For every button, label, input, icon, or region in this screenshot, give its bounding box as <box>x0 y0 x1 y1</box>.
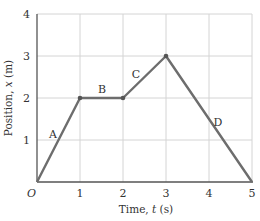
y-axis-label: Position, x (m) <box>2 60 14 136</box>
x-tick-1: 1 <box>77 187 84 200</box>
position-time-chart: 1 2 3 4 1 2 3 4 5 O Time, t (s) Position… <box>0 0 260 221</box>
segment-label-a: A <box>48 128 58 141</box>
x-tick-2: 2 <box>120 187 127 200</box>
x-tick-3: 3 <box>163 187 170 200</box>
segment-label-d: D <box>214 116 223 129</box>
y-tick-3: 3 <box>23 50 30 63</box>
x-tick-5: 5 <box>249 187 256 200</box>
x-axis-label: Time, t (s) <box>119 203 173 215</box>
y-tick-labels: 1 2 3 4 <box>23 8 30 147</box>
vertex-point <box>164 54 169 59</box>
y-tick-1: 1 <box>23 134 30 147</box>
segment-label-b: B <box>98 83 106 96</box>
vertex-point <box>78 96 83 101</box>
x-tick-labels: 1 2 3 4 5 <box>77 187 256 200</box>
y-tick-2: 2 <box>23 92 30 105</box>
y-tick-4: 4 <box>23 8 30 21</box>
x-tick-4: 4 <box>206 187 213 200</box>
segment-label-c: C <box>132 68 140 81</box>
origin-label: O <box>27 187 36 200</box>
vertex-point <box>121 96 126 101</box>
